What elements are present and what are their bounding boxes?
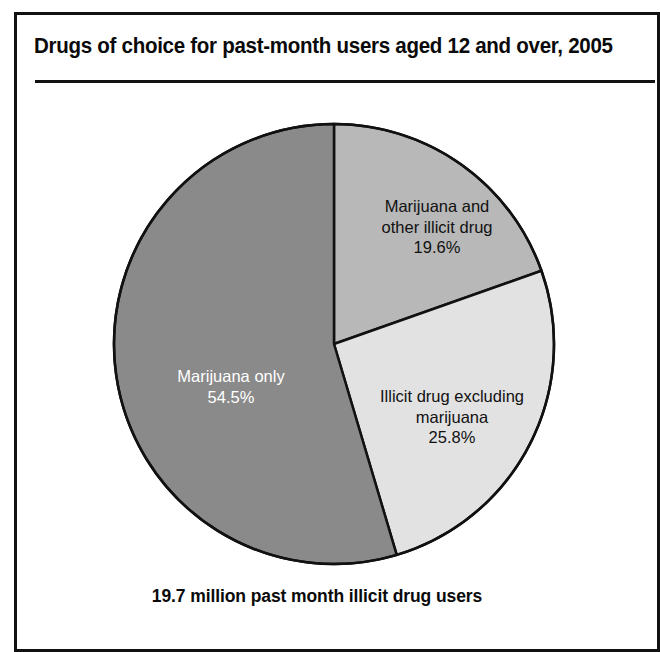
pie-slices (114, 124, 554, 564)
slice-label-line-2: marijuana (352, 407, 552, 428)
slice-label-line-1: Marijuana and (342, 196, 532, 217)
slice-value-marijuana-and-other: 19.6% (342, 237, 532, 258)
slice-label-illicit-excluding-marijuana: Illicit drug excluding marijuana 25.8% (352, 386, 552, 448)
slice-label-line-1: Marijuana only (146, 366, 316, 387)
slice-label-line-1: Illicit drug excluding (352, 386, 552, 407)
slice-label-marijuana-and-other: Marijuana and other illicit drug 19.6% (342, 196, 532, 258)
slice-label-marijuana-only: Marijuana only 54.5% (146, 366, 316, 407)
slice-value-marijuana-only: 54.5% (146, 387, 316, 408)
slice-label-line-2: other illicit drug (342, 217, 532, 238)
chart-caption: 19.7 million past month illicit drug use… (17, 586, 617, 607)
slice-value-illicit-excluding-marijuana: 25.8% (352, 427, 552, 448)
